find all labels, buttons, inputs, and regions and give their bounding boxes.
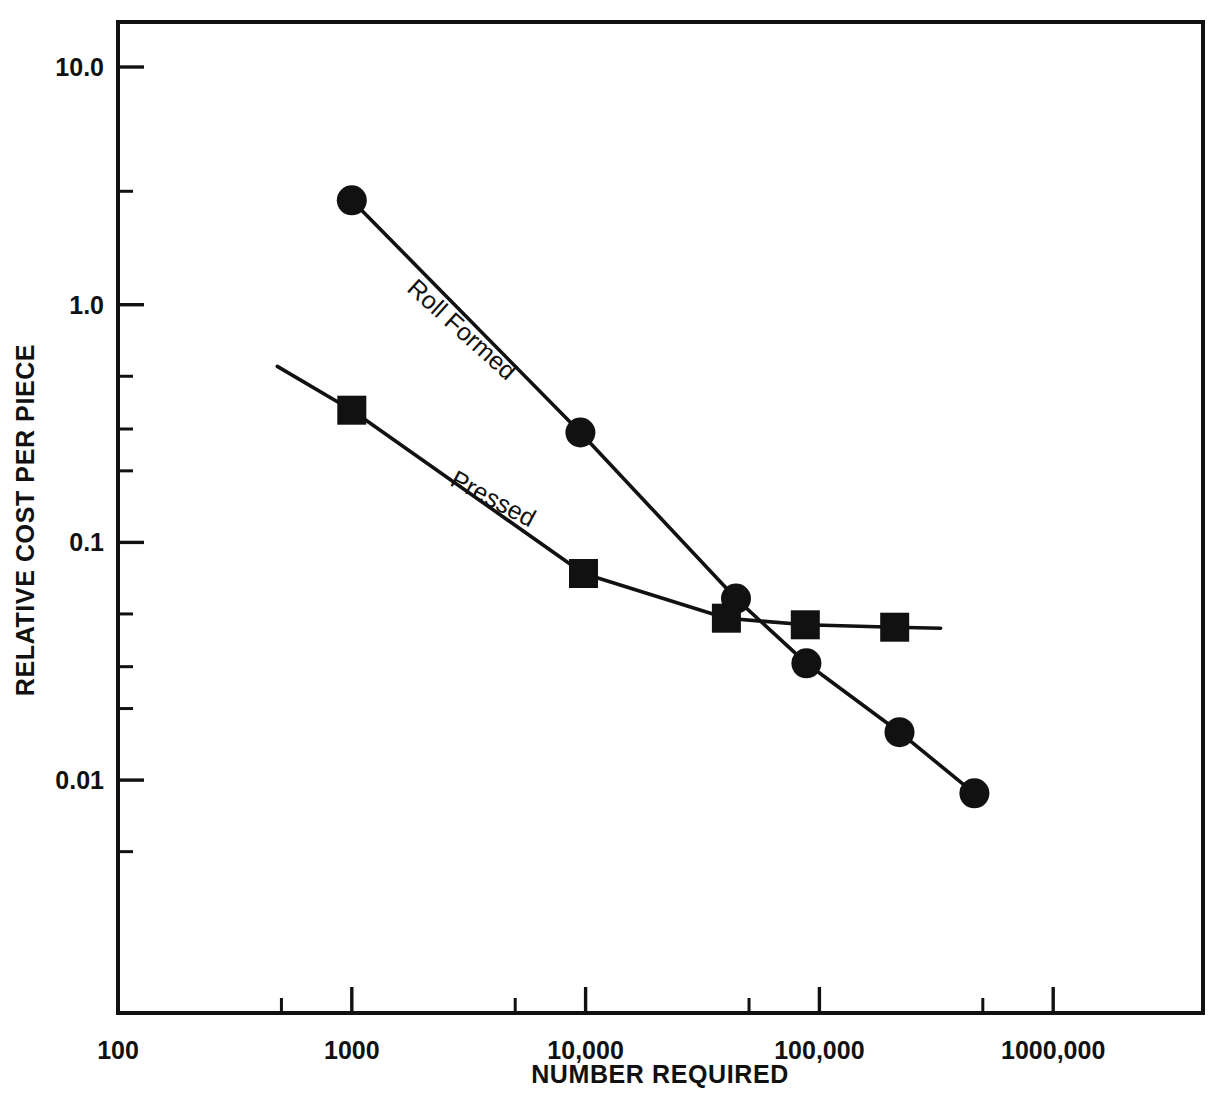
y-tick-label: 0.01 [55, 766, 104, 794]
data-point-square [337, 396, 366, 425]
data-point-square [880, 613, 909, 642]
y-axis-title: RELATIVE COST PER PIECE [11, 344, 39, 696]
y-tick-label: 0.1 [69, 528, 104, 556]
chart-canvas: 10.01.00.10.01 100100010,000100,0001000,… [0, 0, 1217, 1110]
x-tick-label: 1000,000 [1001, 1036, 1105, 1064]
x-tick-label: 1000 [324, 1036, 380, 1064]
x-tick-label: 100 [97, 1036, 139, 1064]
figure-background [0, 0, 1217, 1110]
x-axis-title: NUMBER REQUIRED [531, 1060, 789, 1088]
data-point-square [791, 610, 820, 639]
data-point-square [569, 559, 598, 588]
data-point-circle [791, 648, 821, 678]
data-point-circle [565, 418, 595, 448]
data-point-circle [959, 778, 989, 808]
y-tick-label: 10.0 [55, 53, 104, 81]
y-tick-label: 1.0 [69, 291, 104, 319]
chart-figure: 10.01.00.10.01 100100010,000100,0001000,… [0, 0, 1217, 1110]
data-point-circle [337, 185, 367, 215]
data-point-circle [885, 717, 915, 747]
data-point-square [712, 604, 741, 633]
